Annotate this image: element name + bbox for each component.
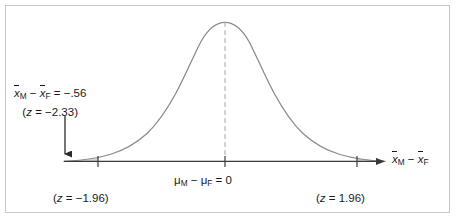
null-hypothesis-label: μM − μF = 0 <box>174 173 232 190</box>
critical-value-right-label: (z = 1.96) <box>316 191 365 205</box>
observed-z-line: (z = −2.33) <box>14 105 86 119</box>
x-axis-label: xM − xF <box>392 152 429 169</box>
normal-curve <box>64 22 385 161</box>
observed-value-annotation: xM − xF = −.56 (z = −2.33) <box>14 86 86 119</box>
observed-value-line-1: xM − xF = −.56 <box>14 87 86 99</box>
statistics-figure: xM − xF = −.56 (z = −2.33) μM − μF = 0 (… <box>0 0 457 220</box>
critical-value-left-label: (z = −1.96) <box>53 191 109 205</box>
